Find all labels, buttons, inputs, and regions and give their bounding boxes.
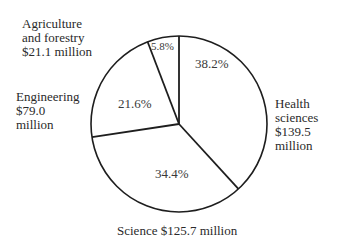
slice-percent-engineering: 21.6% xyxy=(118,97,152,111)
slice-percent-health: 38.2% xyxy=(195,57,229,71)
label-science: Science $125.7 million xyxy=(117,224,237,238)
slice-percent-science: 34.4% xyxy=(155,167,189,181)
slice-percent-agriculture: 5.8% xyxy=(151,39,174,53)
label-agriculture: Agriculture and forestry $21.1 million xyxy=(22,17,92,59)
label-health-sciences: Health sciences $139.5 million xyxy=(275,97,318,153)
label-engineering: Engineering $79.0 million xyxy=(16,90,80,132)
